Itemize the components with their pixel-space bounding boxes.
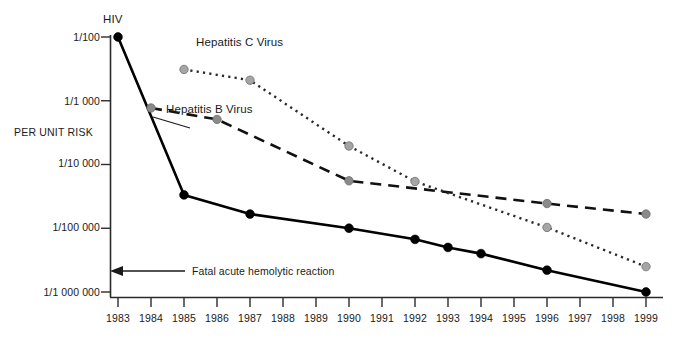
x-tick-label-1998: 1998 (595, 312, 631, 324)
x-tick-label-1984: 1984 (133, 312, 169, 324)
series-hiv (114, 33, 651, 297)
series-hepatitis-b-virus (147, 104, 650, 218)
data-point-1-3 (543, 199, 551, 207)
y-axis-title: PER UNIT RISK (14, 126, 93, 138)
y-tick-label-1-100: 1/100 (38, 31, 100, 43)
x-tick-label-1993: 1993 (430, 312, 466, 324)
x-tick-label-1994: 1994 (463, 312, 499, 324)
data-point-1-1 (213, 115, 221, 123)
data-point-1-0 (147, 104, 155, 112)
x-tick-label-1988: 1988 (265, 312, 301, 324)
data-series-group (114, 33, 651, 297)
data-point-1-4 (642, 210, 650, 218)
data-point-0-2 (246, 210, 255, 219)
x-tick-label-1985: 1985 (166, 312, 202, 324)
x-tick-label-1986: 1986 (199, 312, 235, 324)
data-point-0-7 (543, 266, 552, 275)
data-point-2-1 (246, 76, 254, 84)
hbv-series-label: Hepatitis B Virus (166, 103, 253, 115)
x-tick-label-1990: 1990 (331, 312, 367, 324)
x-tick-label-1987: 1987 (232, 312, 268, 324)
data-point-0-6 (477, 249, 486, 258)
series-line-1 (151, 108, 646, 214)
x-tick-label-1991: 1991 (364, 312, 400, 324)
y-axis-ticks (101, 37, 111, 292)
annotation-group (110, 117, 190, 276)
data-point-0-0 (114, 33, 123, 42)
data-point-0-4 (411, 235, 420, 244)
x-axis-ticks (118, 297, 646, 307)
hcv-series-label: Hepatitis C Virus (196, 36, 283, 48)
x-tick-label-1989: 1989 (298, 312, 334, 324)
data-point-2-5 (642, 262, 650, 270)
y-tick-label-1-1000000: 1/1 000 000 (4, 286, 100, 298)
y-tick-label-1-1000: 1/1 000 (30, 95, 100, 107)
data-point-0-8 (642, 288, 651, 297)
axes (101, 35, 663, 307)
y-tick-label-1-100000: 1/100 000 (14, 221, 100, 233)
data-point-2-0 (180, 65, 188, 73)
x-tick-label-1999: 1999 (628, 312, 664, 324)
hiv-series-label: HIV (103, 13, 122, 25)
series-line-0 (118, 37, 646, 292)
x-tick-label-1992: 1992 (397, 312, 433, 324)
data-point-2-4 (543, 223, 551, 231)
data-point-2-3 (411, 177, 419, 185)
x-tick-label-1995: 1995 (496, 312, 532, 324)
fatal-reaction-arrow-head (110, 266, 123, 276)
y-tick-label-1-10000: 1/10 000 (22, 157, 100, 169)
data-point-2-2 (345, 142, 353, 150)
x-tick-label-1996: 1996 (529, 312, 565, 324)
fatal-reaction-annotation: Fatal acute hemolytic reaction (192, 265, 334, 277)
chart-canvas (0, 0, 674, 340)
risk-over-time-chart: PER UNIT RISK 1/100 1/1 000 1/10 000 1/1… (0, 0, 674, 340)
figure-caption-cutoff (110, 330, 580, 339)
data-point-0-1 (180, 191, 189, 200)
data-point-0-3 (345, 224, 354, 233)
hbv-label-leader-line (153, 117, 190, 128)
x-tick-label-1997: 1997 (562, 312, 598, 324)
data-point-0-5 (444, 243, 453, 252)
x-tick-label-1983: 1983 (100, 312, 136, 324)
data-point-1-2 (345, 177, 353, 185)
